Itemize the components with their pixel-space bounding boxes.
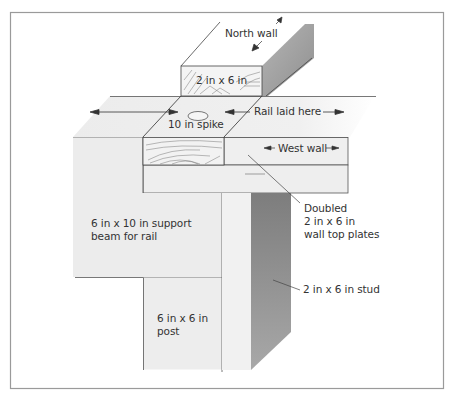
label-doubled: Doubled	[304, 202, 347, 215]
label-post-size: 6 in x 6 in	[157, 312, 208, 325]
label-beam-for-rail: beam for rail	[91, 230, 157, 243]
west-wall-lower-plate	[143, 165, 348, 193]
label-spike: 10 in spike	[168, 118, 224, 131]
label-2x6-board: 2 in x 6 in	[196, 74, 247, 87]
label-post: post	[157, 325, 179, 338]
diagram-canvas: North wall 2 in x 6 in 10 in spike Rail …	[0, 0, 454, 400]
label-support-beam: 6 in x 10 in support	[91, 217, 191, 230]
label-stud: 2 in x 6 in stud	[303, 283, 380, 296]
rail-surface	[73, 96, 375, 137]
stud-front-face	[222, 193, 251, 370]
framing-diagram	[0, 0, 454, 400]
label-doubled-size: 2 in x 6 in	[304, 215, 355, 228]
label-rail-laid-here: Rail laid here	[254, 105, 321, 118]
label-west-wall: West wall	[278, 142, 327, 155]
label-wall-top-plates: wall top plates	[304, 228, 379, 241]
stud-side-face	[251, 193, 291, 370]
label-north-wall: North wall	[225, 27, 278, 40]
